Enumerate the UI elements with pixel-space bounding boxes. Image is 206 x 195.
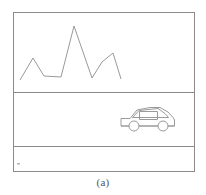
figure-caption: (a) xyxy=(0,175,206,189)
speck-mark xyxy=(17,163,20,165)
scene-illustration xyxy=(0,0,206,195)
rear-wheel-icon xyxy=(158,121,168,131)
figure-panel: (a) xyxy=(0,0,206,195)
front-wheel-icon xyxy=(129,121,139,131)
